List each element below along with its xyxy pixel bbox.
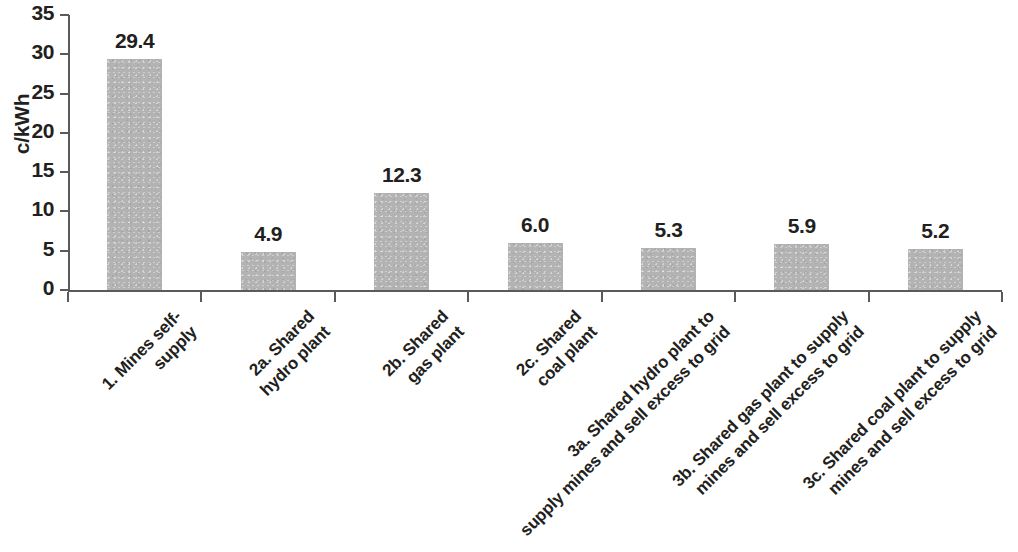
bar: [641, 248, 696, 290]
x-axis-line: [68, 290, 1002, 292]
bar: [107, 59, 162, 290]
y-axis-tick: [60, 250, 69, 252]
y-axis-tick-label: 0: [6, 276, 54, 300]
bar: [908, 249, 963, 290]
y-axis-tick: [60, 53, 69, 55]
y-axis-tick-label: 20: [6, 119, 54, 143]
y-axis-tick-label: 35: [6, 1, 54, 25]
y-axis-tick: [60, 132, 69, 134]
bar-value-label: 12.3: [357, 163, 447, 187]
x-axis-tick: [734, 292, 736, 302]
x-axis-tick: [601, 292, 603, 302]
bar-value-label: 5.2: [890, 219, 980, 243]
bar-value-label: 6.0: [490, 213, 580, 237]
y-axis-tick-label: 25: [6, 80, 54, 104]
y-axis-tick: [60, 171, 69, 173]
bar: [774, 244, 829, 290]
y-axis-tick: [60, 14, 69, 16]
x-axis-tick: [200, 292, 202, 302]
x-axis-tick: [467, 292, 469, 302]
y-axis-tick-label: 10: [6, 197, 54, 221]
y-axis-tick-label: 30: [6, 40, 54, 64]
bar: [374, 193, 429, 290]
x-axis-tick: [868, 292, 870, 302]
y-axis-tick-label: 5: [6, 237, 54, 261]
bar-value-label: 5.3: [623, 218, 713, 242]
bar: [508, 243, 563, 290]
x-axis-tick: [67, 292, 69, 302]
y-axis-tick: [60, 93, 69, 95]
y-axis-tick: [60, 210, 69, 212]
x-axis-tick: [1001, 292, 1003, 302]
x-axis-tick: [334, 292, 336, 302]
bar: [241, 252, 296, 291]
bar-value-label: 5.9: [757, 214, 847, 238]
bar-chart: c/kWh 05101520253035 29.44.912.36.05.35.…: [0, 0, 1018, 552]
bar-value-label: 29.4: [90, 29, 180, 53]
y-axis-tick-label: 15: [6, 158, 54, 182]
bar-value-label: 4.9: [223, 222, 313, 246]
